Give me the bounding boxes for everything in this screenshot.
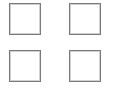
checkbox-top-right[interactable] <box>69 3 101 35</box>
checkbox-top-left[interactable] <box>9 3 41 35</box>
checkbox-bottom-right[interactable] <box>69 50 101 82</box>
checkbox-bottom-left[interactable] <box>9 50 41 82</box>
